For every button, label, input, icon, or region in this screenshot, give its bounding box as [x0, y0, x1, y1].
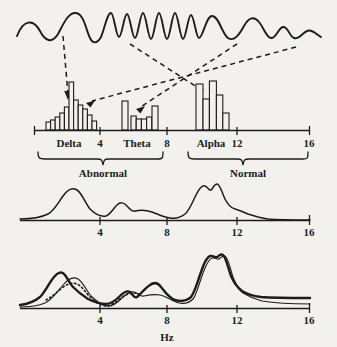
histogram-bar — [152, 106, 158, 130]
histogram-bar — [60, 113, 65, 130]
band-label-delta: Delta — [56, 137, 82, 149]
histogram-bar — [141, 119, 146, 130]
histogram-bar — [83, 109, 88, 130]
histogram-bar — [69, 82, 74, 130]
histogram-tick-label-16: 16 — [304, 137, 316, 149]
band-label-alpha: Alpha — [197, 137, 226, 149]
spectrum-overlay-tick-label-12: 12 — [232, 314, 244, 326]
histogram-bar — [223, 113, 229, 130]
group-label-abnormal: Abnormal — [79, 167, 127, 179]
x-axis-title: Hz — [160, 331, 174, 343]
spectrum-single-tick-label-16: 16 — [304, 226, 316, 238]
histogram-bar — [55, 117, 60, 130]
histogram-bar — [46, 122, 51, 130]
histogram-bar — [51, 120, 56, 130]
histogram-bar — [122, 101, 128, 130]
eeg-spectral-figure: 4 8 12 16 Delta Theta Alpha Abnormal Nor… — [0, 0, 337, 347]
group-label-normal: Normal — [230, 167, 266, 179]
spectrum-single-tick-label-4: 4 — [97, 226, 103, 238]
histogram-tick-label-8: 8 — [164, 137, 170, 149]
histogram-tick-label-12: 12 — [232, 137, 244, 149]
histogram-bar — [131, 116, 136, 130]
histogram-bar — [87, 115, 92, 130]
histogram-bar — [216, 95, 222, 130]
histogram-bar — [209, 81, 216, 130]
histogram-bar — [64, 107, 69, 130]
spectrum-single-tick-label-12: 12 — [232, 226, 244, 238]
band-label-theta: Theta — [123, 137, 151, 149]
histogram-bar — [92, 121, 97, 130]
spectrum-overlay-tick-label-4: 4 — [97, 314, 103, 326]
histogram-bar — [74, 100, 79, 130]
spectrum-overlay-tick-label-16: 16 — [304, 314, 316, 326]
histogram-tick-label-4: 4 — [97, 137, 103, 149]
spectrum-single-tick-label-8: 8 — [164, 226, 170, 238]
histogram-bar — [203, 99, 209, 130]
histogram-bar — [196, 84, 203, 130]
histogram-bar — [78, 105, 83, 130]
histogram-bar — [147, 117, 152, 130]
spectrum-overlay-tick-label-8: 8 — [164, 314, 170, 326]
histogram-bar — [136, 119, 141, 130]
